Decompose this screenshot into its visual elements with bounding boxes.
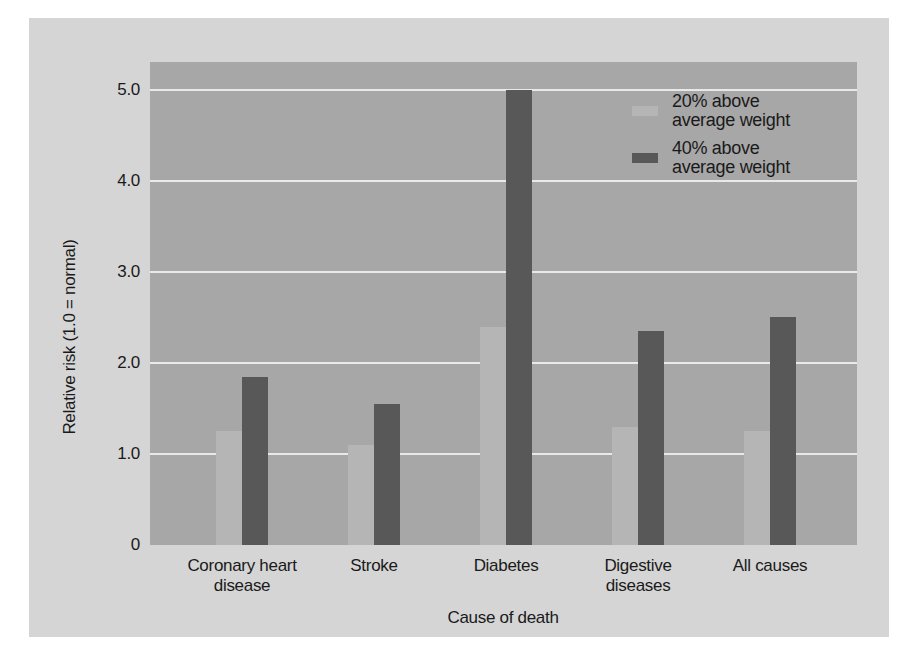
bar-20--diabetes <box>480 327 506 545</box>
legend-entry: 20% above average weight <box>632 92 804 130</box>
bar-40--all-causes <box>770 317 796 545</box>
x-category-label-stroke: Stroke <box>312 556 436 576</box>
x-category-label-diabetes: Diabetes <box>444 556 568 576</box>
legend-label: 40% above average weight <box>672 139 804 177</box>
legend-entry: 40% above average weight <box>632 139 804 177</box>
bar-40--diabetes <box>506 90 532 545</box>
y-axis-title: Relative risk (1.0 = normal) <box>59 222 81 452</box>
bar-20--all-causes <box>744 431 770 545</box>
gridline-3.0 <box>150 271 857 273</box>
y-tick-label-2.0: 2.0 <box>70 352 140 374</box>
plot-area: 20% above average weight40% above averag… <box>150 62 857 545</box>
bar-40--coronary-heart-disease <box>242 377 268 545</box>
legend-swatch-20- <box>632 106 658 116</box>
bar-20--digestive-diseases <box>612 427 638 545</box>
y-tick-label-0: 0 <box>70 534 140 556</box>
gridline-4.0 <box>150 180 857 182</box>
bar-20--coronary-heart-disease <box>216 431 242 545</box>
bar-20--stroke <box>348 445 374 545</box>
x-axis-title: Cause of death <box>403 607 603 629</box>
y-tick-label-5.0: 5.0 <box>70 79 140 101</box>
legend-label: 20% above average weight <box>672 92 804 130</box>
legend-swatch-40- <box>632 153 658 163</box>
x-category-label-all-causes: All causes <box>708 556 832 576</box>
bar-40--digestive-diseases <box>638 331 664 545</box>
page: Relative risk (1.0 = normal) 20% above a… <box>0 0 911 665</box>
chart-legend: 20% above average weight40% above averag… <box>632 92 804 186</box>
bar-40--stroke <box>374 404 400 545</box>
gridline-5.0 <box>150 89 857 91</box>
x-category-label-digestive-diseases: Digestive diseases <box>576 556 700 596</box>
y-tick-label-1.0: 1.0 <box>70 443 140 465</box>
x-category-label-coronary-heart-disease: Coronary heart disease <box>180 556 304 596</box>
y-tick-label-3.0: 3.0 <box>70 261 140 283</box>
chart-panel: Relative risk (1.0 = normal) 20% above a… <box>29 18 889 637</box>
y-tick-label-4.0: 4.0 <box>70 170 140 192</box>
